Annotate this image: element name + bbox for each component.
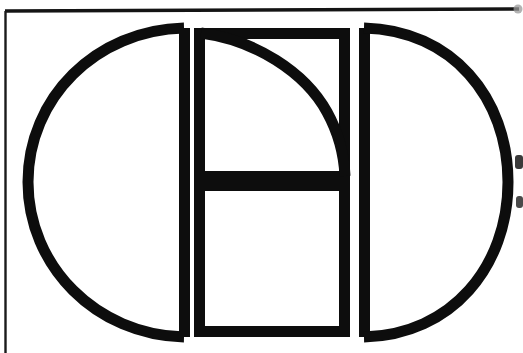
top-page-rule xyxy=(5,9,519,11)
emblem-canvas: Black line-art emblem on white paper: a … xyxy=(0,0,523,353)
top-rule-end-fade xyxy=(514,5,523,14)
emblem-artwork xyxy=(0,0,523,353)
right-edge-speck-upper xyxy=(515,155,523,169)
right-edge-speck-lower xyxy=(516,196,523,208)
